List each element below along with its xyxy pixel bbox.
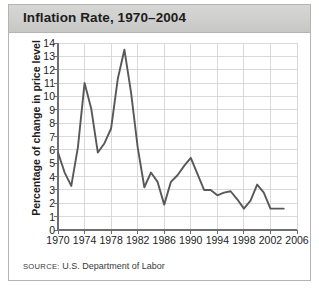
x-axis-area: 1970197419781982198619901994199820022006 — [9, 230, 310, 252]
y-tick-label: 7 — [49, 131, 55, 143]
x-tick-label: 1970 — [46, 234, 69, 246]
x-tick-label: 1982 — [126, 234, 149, 246]
y-tick-label: 2 — [49, 197, 55, 209]
y-tick-label: 13 — [43, 50, 55, 62]
source-text: U.S. Department of Labor — [62, 261, 165, 271]
x-tick-label: 2006 — [285, 234, 308, 246]
y-tick-label: 12 — [43, 64, 55, 76]
x-tick-label: 1978 — [99, 234, 122, 246]
source-label: SOURCE: — [23, 262, 60, 271]
y-tick-label: 3 — [49, 184, 55, 196]
x-tick-label: 1990 — [179, 234, 202, 246]
chart-frame: Inflation Rate, 1970–2004 Percentage of … — [8, 4, 311, 281]
y-tick-label: 5 — [49, 157, 55, 169]
y-tick-label: 9 — [49, 104, 55, 116]
x-tick-label: 1994 — [206, 234, 229, 246]
x-tick-label: 2002 — [259, 234, 282, 246]
page-title: Inflation Rate, 1970–2004 — [23, 10, 186, 25]
y-tick-label: 10 — [43, 90, 55, 102]
y-tick-label: 11 — [44, 77, 55, 89]
y-tick-label: 4 — [49, 171, 55, 183]
y-tick-label: 1 — [49, 211, 55, 223]
y-tick-label: 14 — [43, 37, 55, 49]
x-tick-label: 1974 — [73, 234, 96, 246]
source-note: SOURCE: U.S. Department of Labor — [23, 261, 165, 271]
chart-title-bar: Inflation Rate, 1970–2004 — [9, 5, 310, 33]
x-tick-label: 1986 — [153, 234, 176, 246]
y-axis-tick-labels: 01234567891011121314 — [35, 34, 55, 256]
plot-area-wrapper: Percentage of change in price level 0123… — [9, 34, 310, 256]
y-tick-label: 8 — [49, 117, 55, 129]
x-tick-label: 1998 — [232, 234, 255, 246]
figure-root: Inflation Rate, 1970–2004 Percentage of … — [0, 0, 319, 289]
x-axis-tick-labels: 1970197419781982198619901994199820022006 — [9, 230, 310, 250]
y-tick-label: 6 — [49, 144, 55, 156]
